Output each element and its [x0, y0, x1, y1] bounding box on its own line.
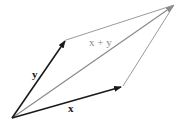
label-x: x [68, 102, 74, 114]
edge-x-to-sum [123, 5, 174, 86]
label-y: y [32, 68, 38, 80]
vector-y [12, 41, 65, 118]
vector-sum [12, 6, 173, 118]
edge-y-to-sum [66, 5, 174, 40]
label-sum: x + y [89, 36, 112, 48]
parallelogram-diagram: y x x + y [0, 0, 187, 127]
vector-x [12, 87, 121, 118]
